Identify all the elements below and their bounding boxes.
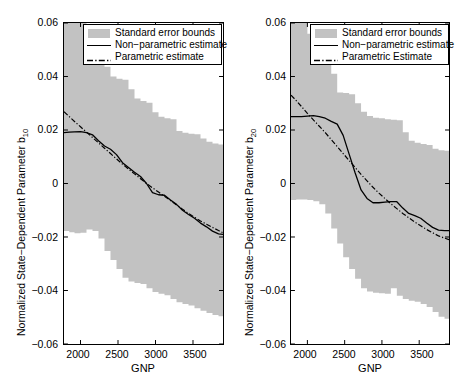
legend-label: Standard error bounds (342, 27, 442, 39)
x-tick-label: 3000 (140, 348, 172, 360)
x-axis-label-b20: GNP (340, 362, 400, 374)
band-swatch-icon (86, 28, 112, 39)
legend-item-nonparametric: Non−parametric estimate (313, 39, 445, 51)
figure-two-panel-chart: Normalized State−Dependent Parameter b10… (0, 0, 455, 383)
y-tick-label: 0.04 (24, 70, 58, 82)
legend-item-standard-error-bounds: Standard error bounds (86, 27, 218, 39)
legend-label: Parametric Estimate (342, 51, 432, 63)
band-swatch-icon (313, 28, 339, 39)
legend-item-standard-error-bounds: Standard error bounds (313, 27, 445, 39)
y-tick-label: 0.02 (24, 123, 58, 135)
legend-b10: Standard error bounds Non−parametric est… (83, 24, 222, 65)
plot-area-b20 (290, 22, 450, 345)
legend-label: Standard error bounds (115, 27, 215, 39)
x-tick-label: 2500 (328, 348, 360, 360)
x-tick-label: 3500 (406, 348, 438, 360)
legend-b20: Standard error bounds Non−parametric est… (310, 24, 449, 65)
dashdot-line-icon (313, 52, 339, 63)
legend-item-parametric: Parametric Estimate (313, 51, 445, 63)
legend-label: Parametric estimate (115, 51, 204, 63)
plot-area-b10 (63, 22, 224, 345)
x-tick-label: 2000 (62, 348, 94, 360)
plot-curves-b10 (64, 23, 223, 344)
y-tick-label: 0.02 (252, 123, 286, 135)
plot-curves-b20 (291, 23, 449, 344)
y-tick-label: 0 (24, 177, 58, 189)
y-tick-label: −0.02 (20, 231, 58, 243)
legend-item-nonparametric: Non−parametric estimate (86, 39, 218, 51)
solid-line-icon (86, 40, 112, 51)
y-tick-label: 0.04 (252, 70, 286, 82)
y-tick-label: −0.06 (248, 338, 286, 350)
y-tick-label: −0.06 (20, 338, 58, 350)
x-tick-label: 3500 (179, 348, 211, 360)
y-tick-label: 0 (252, 177, 286, 189)
solid-line-icon (313, 40, 339, 51)
legend-item-parametric: Parametric estimate (86, 51, 218, 63)
legend-label: Non−parametric estimate (342, 39, 454, 51)
dashdot-glyph (313, 55, 339, 66)
y-tick-label: 0.06 (252, 16, 286, 28)
dashdot-line-icon (86, 52, 112, 63)
x-tick-label: 2500 (101, 348, 133, 360)
panel-b20: Normalized State−Dependent Parameter b20… (228, 0, 455, 383)
x-tick-label: 3000 (367, 348, 399, 360)
dashdot-glyph (86, 55, 112, 66)
y-tick-label: −0.04 (248, 284, 286, 296)
y-tick-label: −0.02 (248, 231, 286, 243)
panel-b10: Normalized State−Dependent Parameter b10… (0, 0, 228, 383)
y-tick-label: −0.04 (20, 284, 58, 296)
legend-label: Non−parametric estimate (115, 39, 227, 51)
y-tick-label: 0.06 (24, 16, 58, 28)
x-tick-label: 2000 (289, 348, 321, 360)
x-axis-label-b10: GNP (113, 362, 173, 374)
